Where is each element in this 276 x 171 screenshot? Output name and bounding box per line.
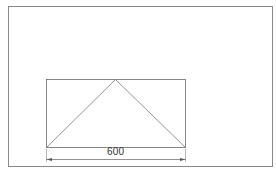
dimension-label: 600 <box>107 146 124 157</box>
triangle-roof <box>47 80 186 148</box>
arrowhead-right-icon <box>180 158 186 161</box>
drawing-svg <box>0 0 276 171</box>
base-rectangle <box>47 80 186 148</box>
outer-frame <box>9 7 273 167</box>
arrowhead-left-icon <box>47 158 53 161</box>
drawing-canvas: 600 <box>0 0 276 171</box>
